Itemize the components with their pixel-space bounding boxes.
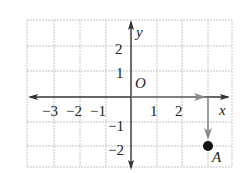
x-tick-label: −3 (42, 103, 58, 119)
coordinate-plane: y x O −3 −2 −1 1 2 2 1 −1 −2 A (0, 0, 252, 173)
y-tick-label: −1 (108, 118, 124, 134)
y-tick-label: −2 (108, 142, 124, 158)
point-a-label: A (211, 149, 222, 165)
x-axis-label: x (218, 102, 226, 118)
x-tick-label: 1 (150, 103, 158, 119)
y-tick-label: 1 (116, 65, 124, 81)
x-tick-label: 2 (175, 103, 183, 119)
grid (27, 20, 232, 167)
y-axis (128, 20, 134, 170)
x-tick-label: −2 (66, 103, 82, 119)
y-tick-label: 2 (115, 41, 123, 57)
x-tick-label: −1 (90, 103, 106, 119)
origin-label: O (135, 75, 146, 91)
translation-arrow-right (131, 93, 206, 101)
y-axis-label: y (134, 24, 143, 40)
translation-arrow-down (204, 97, 212, 140)
